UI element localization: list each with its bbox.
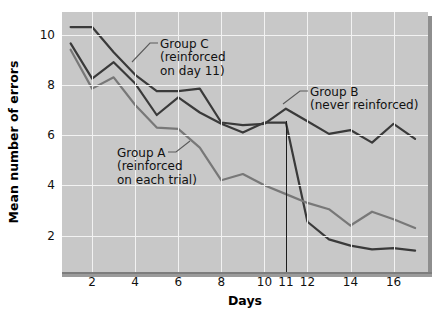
annotation-leader-lines (0, 0, 445, 312)
leader-line (283, 91, 308, 104)
leader-line (132, 43, 158, 62)
leader-line (168, 141, 190, 152)
chart-figure: Mean number of errors 246810 24681011121… (0, 0, 445, 312)
